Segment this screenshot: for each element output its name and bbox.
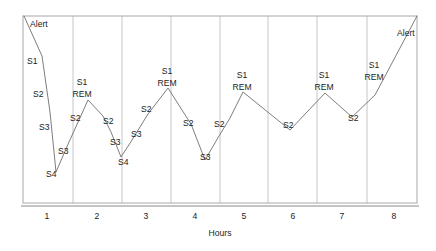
stage-label-s4: S4 <box>46 169 57 179</box>
stage-label-s1: S1 <box>319 70 330 80</box>
stage-label-s1: S1 <box>77 77 88 87</box>
x-tick-1: 1 <box>45 211 50 221</box>
stage-label-s2: S2 <box>214 119 225 129</box>
stage-label-s2: S2 <box>103 116 114 126</box>
stage-label-rem: REM <box>157 78 176 88</box>
stage-label-rem: REM <box>232 82 251 92</box>
sleep-cycle-chart: AlertS1S2S3S4S3S2S1REMS2S3S4S3S2S1REMS2S… <box>0 0 436 251</box>
stage-label-s2: S2 <box>70 113 81 123</box>
stage-label-s3: S3 <box>110 137 121 147</box>
x-axis-title: Hours <box>209 228 232 238</box>
x-tick-5: 5 <box>242 211 247 221</box>
stage-label-s3: S3 <box>131 129 142 139</box>
x-tick-8: 8 <box>392 211 397 221</box>
stage-label-s2: S2 <box>283 120 294 130</box>
stage-label-rem: REM <box>72 89 91 99</box>
x-tick-2: 2 <box>95 211 100 221</box>
stage-label-alert: Alert <box>30 19 48 29</box>
stage-label-s3: S3 <box>39 122 50 132</box>
stage-label-s1: S1 <box>27 56 38 66</box>
stage-label-s2: S2 <box>348 113 359 123</box>
stage-label-s2: S2 <box>183 118 194 128</box>
stage-label-s3: S3 <box>58 146 69 156</box>
x-axis-tick-labels: 12345678 <box>45 211 397 221</box>
stage-label-s1: S1 <box>237 70 248 80</box>
stage-label-rem: REM <box>314 82 333 92</box>
stage-label-rem: REM <box>364 72 383 82</box>
x-tick-6: 6 <box>291 211 296 221</box>
stage-label-s2: S2 <box>33 89 44 99</box>
hypnogram-figure: AlertS1S2S3S4S3S2S1REMS2S3S4S3S2S1REMS2S… <box>0 0 436 251</box>
stage-label-s1: S1 <box>162 66 173 76</box>
stage-label-s3: S3 <box>200 152 211 162</box>
stage-label-alert: Alert <box>397 28 415 38</box>
x-tick-7: 7 <box>340 211 345 221</box>
stage-label-s2: S2 <box>141 104 152 114</box>
stage-label-s4: S4 <box>118 157 129 167</box>
x-tick-4: 4 <box>193 211 198 221</box>
x-tick-3: 3 <box>144 211 149 221</box>
stage-label-s1: S1 <box>369 60 380 70</box>
